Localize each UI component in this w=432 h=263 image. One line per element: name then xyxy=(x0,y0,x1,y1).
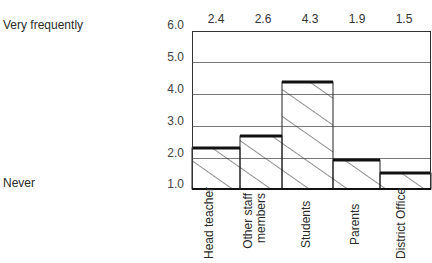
category-label: Other staffmembers xyxy=(242,193,268,259)
category-label: Parents xyxy=(349,204,362,245)
bar-other-staff xyxy=(240,136,282,189)
category-label: District Office xyxy=(395,188,408,259)
bar-students xyxy=(282,82,333,189)
bar-district-office xyxy=(380,173,431,189)
bar-chart xyxy=(0,0,432,263)
bar-head-teacher xyxy=(192,148,240,189)
bar-parents xyxy=(333,160,380,189)
category-label: Students xyxy=(300,201,313,248)
category-label: Head teacher xyxy=(203,187,216,259)
